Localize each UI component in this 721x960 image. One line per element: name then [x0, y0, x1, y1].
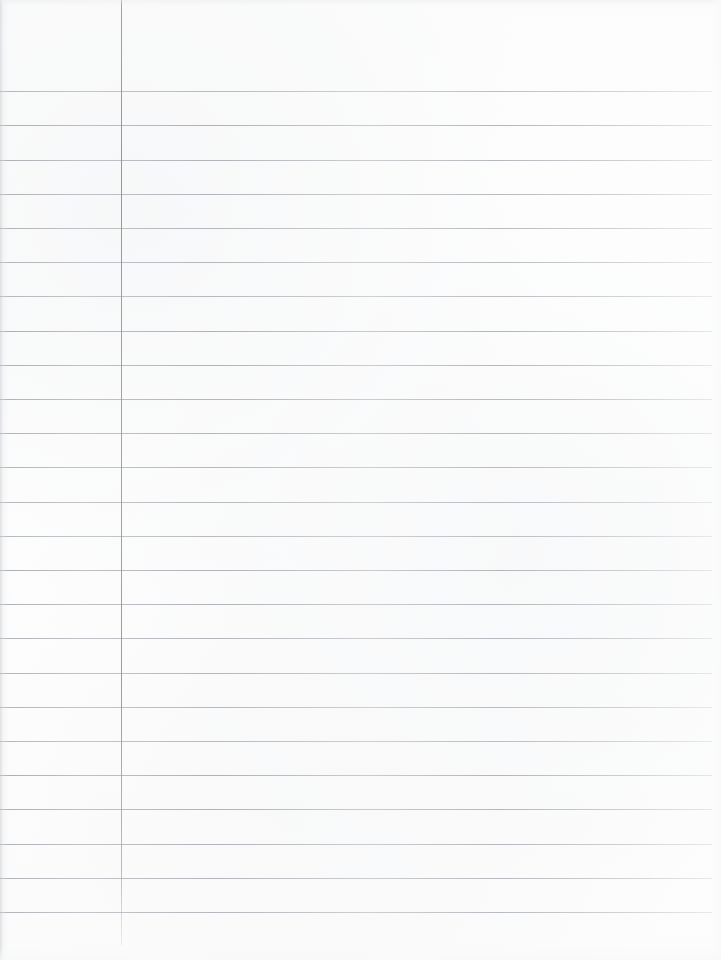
left-margin-column[interactable]: [0, 91, 121, 913]
footer-area[interactable]: [0, 912, 721, 960]
writing-body-area[interactable]: [121, 91, 712, 913]
header-area[interactable]: [0, 0, 721, 91]
notebook-page: [0, 0, 721, 960]
page-edge-shadow-right: [711, 0, 721, 960]
